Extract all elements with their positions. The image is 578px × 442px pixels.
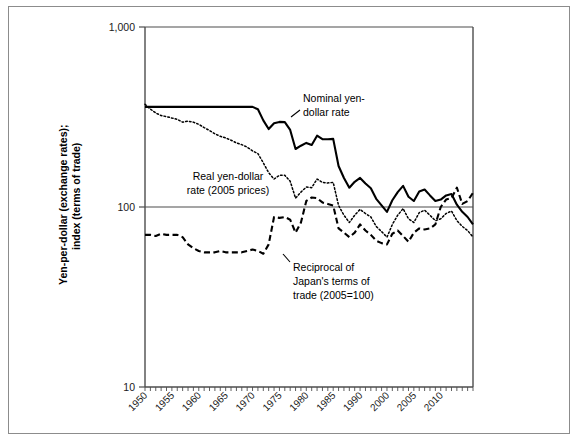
x-tick-label-1960: 1960 <box>180 389 204 413</box>
annotation-nominal-line1: Nominal yen- <box>303 92 365 104</box>
annotation-terms-of-trade: Reciprocal of Japan's terms of trade (20… <box>293 261 374 301</box>
x-tick-label-2005: 2005 <box>395 389 419 413</box>
annotation-nominal: Nominal yen- dollar rate <box>303 92 365 118</box>
annotation-tot-line2: Japan's terms of <box>293 275 370 287</box>
annotation-real-line2: rate (2005 prices) <box>187 184 269 196</box>
leader-line-nominal <box>291 110 300 117</box>
x-tick-label-1975: 1975 <box>260 389 284 413</box>
annotation-tot-line1: Reciprocal of <box>293 261 354 273</box>
x-tick-label-2010: 2010 <box>422 389 446 413</box>
y-axis-title-line2: index (terms of trade) <box>70 143 82 250</box>
x-tick-label-1990: 1990 <box>341 389 365 413</box>
x-tick-label-2000: 2000 <box>368 389 392 413</box>
x-tick-labels: 1950195519601965197019751980198519902000… <box>126 389 446 413</box>
annotation-real-line1: Real yen-dollar <box>193 170 264 182</box>
y-tick-label-10: 10 <box>123 381 135 393</box>
annotation-tot-line3: trade (2005=100) <box>293 289 374 301</box>
x-tick-label-1980: 1980 <box>287 389 311 413</box>
x-tick-label-1965: 1965 <box>207 389 231 413</box>
x-tick-label-1970: 1970 <box>233 389 257 413</box>
y-axis-title-line1: Yen-per-dollar (exchange rates); <box>57 125 69 285</box>
x-tick-label-1955: 1955 <box>153 389 177 413</box>
leader-line-terms-of-trade <box>283 254 290 262</box>
chart-figure: 1,000 100 10 195019551960196519701975198… <box>0 0 578 442</box>
annotation-nominal-line2: dollar rate <box>303 106 350 118</box>
y-tick-label-1000: 1,000 <box>109 21 135 33</box>
y-ticks <box>139 27 145 387</box>
y-tick-label-100: 100 <box>117 201 135 213</box>
series-reciprocal-terms-of-trade <box>145 188 473 254</box>
y-axis-title: Yen-per-dollar (exchange rates); index (… <box>57 125 82 285</box>
chart-canvas: 1,000 100 10 195019551960196519701975198… <box>0 0 578 442</box>
annotation-real: Real yen-dollar rate (2005 prices) <box>187 170 269 196</box>
x-tick-label-1985: 1985 <box>314 389 338 413</box>
